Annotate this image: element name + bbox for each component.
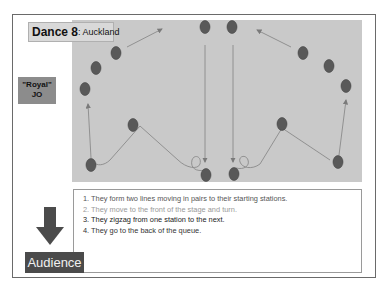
steps-list: 1. They form two lines moving in pairs t… — [73, 189, 362, 273]
royal-label-line2: JO — [18, 90, 56, 100]
title-location: : Auckland — [78, 27, 120, 37]
dancers — [80, 21, 351, 182]
step-2: 2. They move to the front of the stage a… — [83, 205, 361, 216]
step-4: 4. They go to the back of the queue. — [83, 226, 361, 237]
audience-label: Audience — [25, 252, 84, 273]
royal-label-line1: "Royal" — [18, 80, 56, 90]
royal-label: "Royal" JO — [18, 77, 56, 104]
dance-title: Dance 8: Auckland — [28, 22, 114, 42]
step-3: 3. They zigzag from one station to the n… — [83, 215, 361, 226]
down-arrow-icon — [36, 207, 64, 247]
title-main: Dance 8 — [32, 25, 78, 39]
step-1: 1. They form two lines moving in pairs t… — [83, 194, 361, 205]
